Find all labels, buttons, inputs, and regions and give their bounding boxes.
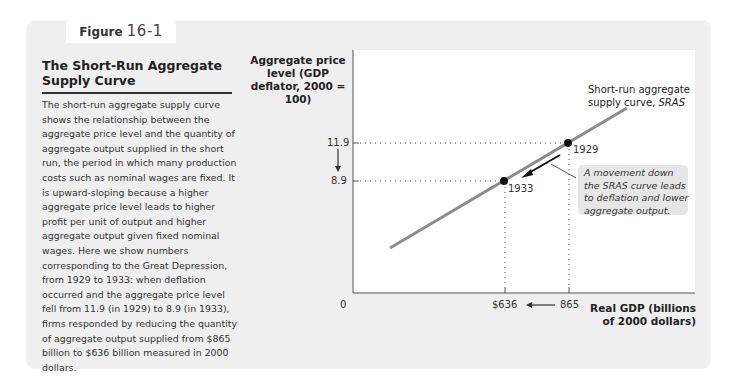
label-1929: 1929	[573, 144, 598, 155]
y-axis-title: Aggregate price level (GDP deflator, 200…	[248, 54, 348, 106]
point-1929	[564, 139, 572, 147]
label-1933: 1933	[508, 183, 533, 194]
y-tick-11-9: 11.9	[327, 137, 349, 148]
callout-text: A movement down the SRAS curve leads to …	[584, 167, 690, 217]
x-tick-865: 865	[560, 299, 579, 310]
sras-label-line2: supply curve,	[588, 97, 655, 108]
sras-label-name: SRAS	[659, 97, 685, 108]
callout-pointer	[551, 164, 576, 178]
sras-label-line1: Short-run aggregate	[588, 84, 690, 97]
point-1933	[500, 177, 508, 185]
x-tick-636: $636	[492, 299, 517, 310]
sras-label: Short-run aggregate supply curve, SRAS	[588, 84, 690, 109]
y-tick-8-9: 8.9	[331, 175, 347, 186]
x-axis-title: Real GDP (billions of 2000 dollars)	[590, 302, 696, 328]
origin-label: 0	[340, 299, 346, 310]
